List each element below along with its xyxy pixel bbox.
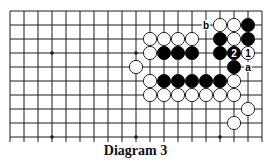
star-point	[50, 135, 54, 139]
white-stone	[143, 88, 156, 101]
white-stone	[227, 32, 240, 45]
white-stone	[171, 32, 184, 45]
white-stone	[143, 74, 156, 87]
move-number-label: 1	[245, 48, 251, 59]
black-stone: 2	[227, 46, 240, 59]
white-stone	[227, 18, 240, 31]
white-stone	[157, 88, 170, 101]
white-stone	[227, 88, 240, 101]
white-stone	[171, 88, 184, 101]
move-number-label: 2	[231, 48, 237, 59]
black-stone	[241, 18, 254, 31]
white-stone	[143, 46, 156, 59]
star-point	[134, 51, 138, 55]
black-stone	[157, 46, 170, 59]
white-stone	[227, 116, 240, 129]
point-label-b: b	[203, 20, 209, 31]
white-stone	[199, 88, 212, 101]
white-stone	[185, 32, 198, 45]
black-stone	[213, 32, 226, 45]
white-stone	[213, 18, 226, 31]
star-point	[218, 135, 222, 139]
black-stone	[227, 60, 240, 73]
star-point	[134, 135, 138, 139]
black-stone	[199, 74, 212, 87]
white-stone: 1	[241, 46, 254, 59]
white-stone	[143, 32, 156, 45]
black-stone	[157, 74, 170, 87]
diagram-caption: Diagram 3	[0, 143, 271, 159]
star-point	[50, 51, 54, 55]
white-stone	[129, 60, 142, 73]
black-stone	[213, 46, 226, 59]
black-stone	[241, 32, 254, 45]
white-stone	[241, 102, 254, 115]
black-stone	[171, 46, 184, 59]
white-stone	[157, 32, 170, 45]
white-stone	[213, 88, 226, 101]
white-stone	[227, 74, 240, 87]
black-stone	[185, 46, 198, 59]
black-stone	[185, 74, 198, 87]
black-stone	[171, 74, 184, 87]
point-label-a: a	[245, 62, 251, 73]
white-stone	[185, 88, 198, 101]
go-board: 21 ba	[0, 0, 271, 145]
black-stone	[213, 74, 226, 87]
